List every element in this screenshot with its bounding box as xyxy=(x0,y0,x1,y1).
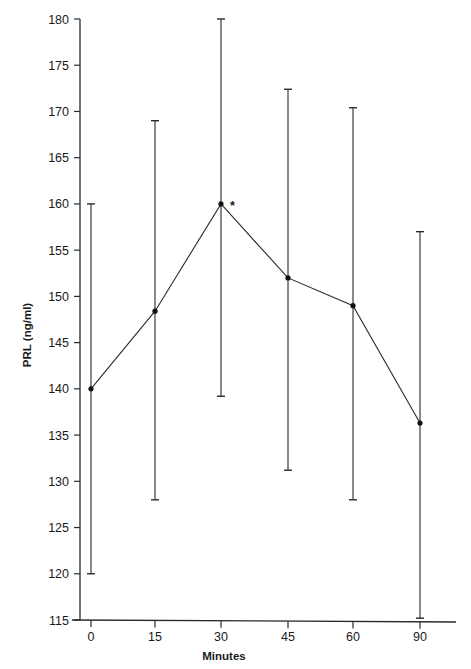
x-tick-label: 45 xyxy=(281,630,295,644)
data-point xyxy=(152,309,157,314)
data-point xyxy=(417,420,422,425)
y-tick-label: 155 xyxy=(48,244,69,258)
x-axis-line xyxy=(72,620,456,622)
x-axis: 01530456090 xyxy=(72,620,456,644)
data-point xyxy=(285,275,290,280)
y-axis-title: PRL (ng/ml) xyxy=(21,303,33,367)
data-line xyxy=(91,204,420,423)
y-tick-label: 150 xyxy=(48,290,69,304)
x-axis-title: Minutes xyxy=(202,650,245,662)
y-tick-label: 175 xyxy=(48,59,69,73)
line-chart: 1151201251301351401451501551601651701751… xyxy=(0,0,471,669)
data-points xyxy=(88,201,422,425)
y-tick-label: 135 xyxy=(48,429,69,443)
y-tick-label: 160 xyxy=(48,197,69,211)
x-tick-label: 90 xyxy=(413,630,427,644)
x-tick-label: 60 xyxy=(346,630,360,644)
x-tick-label: 15 xyxy=(148,630,162,644)
series-polyline xyxy=(91,204,420,423)
x-tick-label: 30 xyxy=(214,630,228,644)
data-point xyxy=(218,201,223,206)
y-axis: 1151201251301351401451501551601651701751… xyxy=(48,13,80,628)
y-tick-label: 170 xyxy=(48,105,69,119)
annotations: * xyxy=(230,199,235,213)
y-tick-label: 165 xyxy=(48,151,69,165)
y-tick-label: 120 xyxy=(48,567,69,581)
y-tick-label: 145 xyxy=(48,336,69,350)
y-tick-label: 115 xyxy=(49,614,69,628)
significance-asterisk: * xyxy=(230,199,235,213)
data-point xyxy=(88,386,93,391)
x-tick-label: 0 xyxy=(88,630,95,644)
y-tick-label: 125 xyxy=(48,521,69,535)
error-bars xyxy=(87,19,424,618)
y-tick-label: 180 xyxy=(48,13,69,27)
y-tick-label: 140 xyxy=(48,382,69,396)
y-tick-label: 130 xyxy=(48,475,69,489)
data-point xyxy=(350,303,355,308)
